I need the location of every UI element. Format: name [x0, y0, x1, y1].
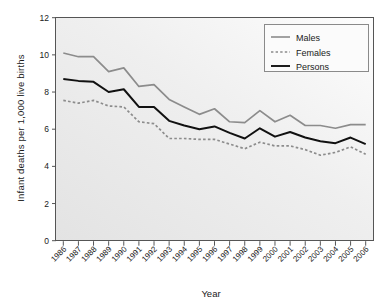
line-chart-plot: 024681012 198619871988198919901991199219…	[0, 0, 392, 308]
chart-figure: Infant deaths per 1,000 live births 0246…	[0, 0, 392, 308]
y-tick-label: 8	[44, 87, 49, 97]
x-axis-title-text: Year	[171, 288, 220, 299]
x-tick-label: 1997	[216, 244, 235, 263]
x-tick-label: 1989	[95, 244, 114, 263]
x-tick-label: 2004	[321, 244, 340, 263]
y-tick-label: 6	[44, 124, 49, 134]
x-tick-label: 1995	[185, 244, 204, 263]
x-tick-label: 1986	[49, 244, 68, 263]
x-tick-label: 1996	[200, 244, 219, 263]
y-tick-label: 12	[40, 13, 50, 23]
x-axis-title: Year	[0, 288, 392, 299]
x-tick-label: 1987	[64, 244, 83, 263]
x-tick-label: 2006	[352, 244, 371, 263]
y-tick-label: 2	[44, 199, 49, 209]
x-tick-label: 1998	[231, 244, 250, 263]
x-tick-label: 1994	[170, 244, 189, 263]
x-tick-label: 2003	[306, 244, 325, 263]
legend-label-females: Females	[296, 48, 331, 58]
x-tick-label: 1993	[155, 244, 174, 263]
y-tick-label: 4	[44, 161, 49, 171]
x-axis-ticks: 1986198719881989199019911992199319941995…	[49, 241, 371, 263]
y-tick-label: 0	[44, 236, 49, 246]
y-tick-label: 10	[40, 50, 50, 60]
x-tick-label: 1999	[246, 244, 265, 263]
x-tick-label: 1992	[140, 244, 159, 263]
y-axis-ticks: 024681012	[40, 13, 56, 246]
x-tick-label: 1988	[80, 244, 99, 263]
x-tick-label: 2000	[261, 244, 280, 263]
x-tick-label: 1990	[110, 244, 129, 263]
x-tick-label: 2001	[276, 244, 295, 263]
chart-legend: Males Females Persons	[265, 25, 369, 72]
x-tick-label: 1991	[125, 244, 144, 263]
x-tick-label: 2002	[291, 244, 310, 263]
legend-label-persons: Persons	[296, 62, 330, 72]
x-tick-label: 2005	[337, 244, 356, 263]
legend-label-males: Males	[296, 33, 321, 43]
